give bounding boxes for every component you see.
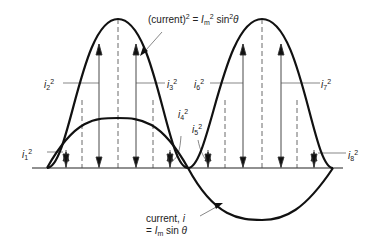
label-i7: i72 — [321, 76, 331, 93]
label-i4: i42 — [178, 106, 188, 123]
current-label: current, i = Im sin θ — [146, 213, 187, 240]
label-i5: i52 — [192, 121, 202, 138]
current-squared-curve — [47, 19, 333, 168]
current-curve — [47, 118, 333, 220]
waveform-diagram — [0, 0, 378, 249]
label-i8: i82 — [348, 147, 358, 164]
current-squared-label: (current)2 = Im2 sin2θ — [148, 11, 239, 28]
label-i1: i12 — [22, 146, 32, 163]
ordinate-lines — [63, 44, 317, 168]
label-i3: i32 — [167, 76, 177, 93]
dashed-guides — [82, 19, 297, 168]
label-i6: i62 — [194, 76, 204, 93]
label-i2: i22 — [44, 76, 54, 93]
